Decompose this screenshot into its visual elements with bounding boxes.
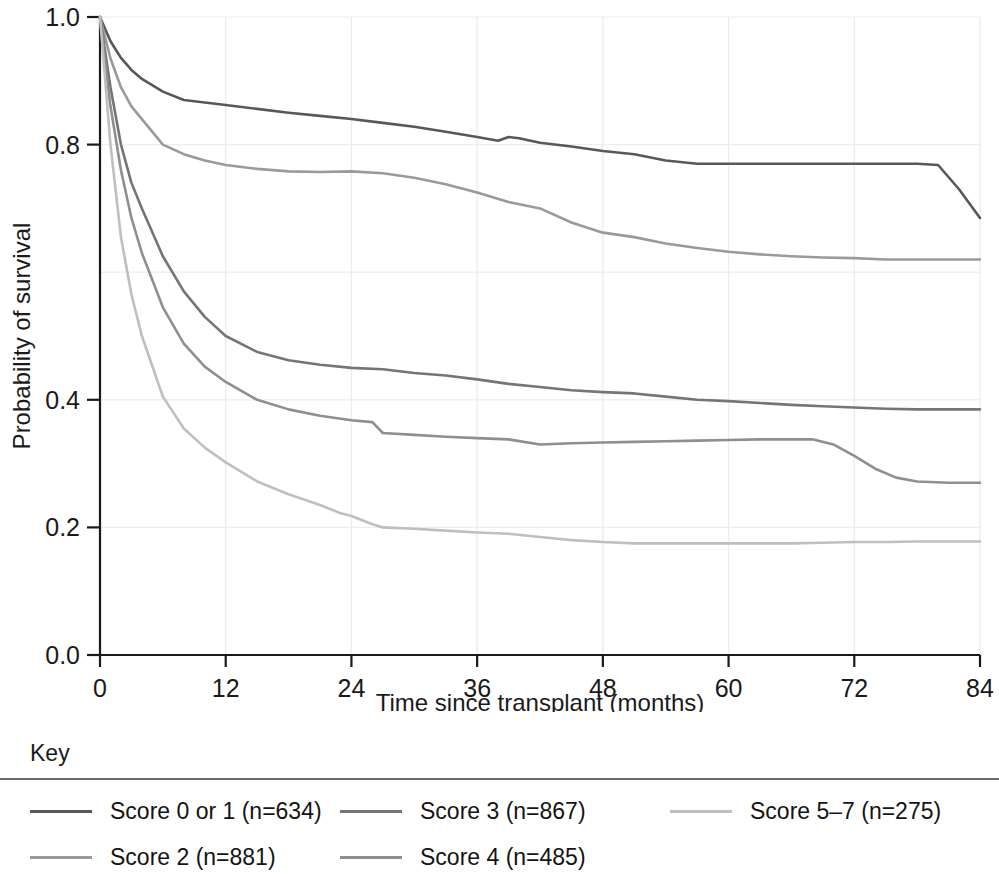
legend-line-swatch	[30, 856, 92, 859]
legend-item[interactable]: Score 5–7 (n=275)	[670, 788, 999, 834]
legend-item[interactable]: Score 3 (n=867)	[340, 788, 670, 834]
series-line-2	[100, 17, 980, 409]
x-tick-label: 60	[715, 674, 743, 702]
legend-item[interactable]: Score 2 (n=881)	[0, 834, 340, 874]
legend-divider	[0, 778, 999, 780]
plot-area: 0.00.20.40.81.0 012243648607284 Probabil…	[0, 0, 999, 712]
legend-items-container: Score 0 or 1 (n=634)Score 3 (n=867)Score…	[0, 788, 999, 874]
y-tick-label: 0.2	[45, 513, 80, 541]
legend-item-label: Score 0 or 1 (n=634)	[110, 800, 322, 823]
legend-line-swatch	[670, 810, 732, 813]
y-axis-title: Probability of survival	[8, 223, 35, 450]
series-line-0	[100, 17, 980, 218]
legend-title: Key	[30, 742, 70, 765]
kaplan-meier-plot-svg: 0.00.20.40.81.0 012243648607284 Probabil…	[0, 0, 999, 712]
y-tick-label: 0.0	[45, 641, 80, 669]
y-axis-ticks-group: 0.00.20.40.81.0	[45, 3, 100, 669]
legend-item-label: Score 3 (n=867)	[420, 800, 586, 823]
legend-line-swatch	[340, 856, 402, 859]
legend-item[interactable]: Score 4 (n=485)	[340, 834, 670, 874]
legend-item-label: Score 2 (n=881)	[110, 846, 276, 869]
legend: Key Score 0 or 1 (n=634)Score 3 (n=867)S…	[0, 712, 999, 846]
series-lines-group	[100, 17, 980, 543]
y-tick-label: 0.8	[45, 131, 80, 159]
x-tick-label: 0	[93, 674, 107, 702]
series-line-3	[100, 17, 980, 483]
axes-group	[100, 17, 980, 655]
legend-item-label: Score 4 (n=485)	[420, 846, 586, 869]
x-tick-label: 24	[338, 674, 366, 702]
x-axis-title: Time since transplant (months)	[376, 689, 705, 712]
x-tick-label: 84	[966, 674, 994, 702]
y-tick-label: 0.4	[45, 386, 80, 414]
series-line-1	[100, 17, 980, 259]
gridlines-group	[100, 17, 980, 655]
x-tick-label: 72	[840, 674, 868, 702]
legend-item[interactable]: Score 0 or 1 (n=634)	[0, 788, 340, 834]
y-tick-label: 1.0	[45, 3, 80, 31]
legend-line-swatch	[340, 810, 402, 813]
series-line-4	[100, 17, 980, 543]
x-tick-label: 12	[212, 674, 240, 702]
legend-line-swatch	[30, 810, 92, 813]
legend-item-label: Score 5–7 (n=275)	[750, 800, 941, 823]
